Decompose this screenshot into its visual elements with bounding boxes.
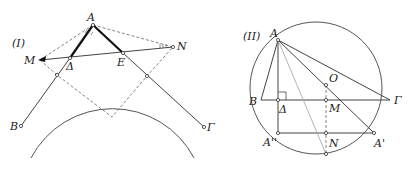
point-Aprime <box>372 131 375 134</box>
figure-2-circle <box>250 22 382 154</box>
point-M <box>324 98 327 101</box>
point-N <box>324 131 327 134</box>
label-N: N <box>176 40 187 53</box>
label-Delta: Δ <box>278 103 287 116</box>
segment-AM <box>40 25 93 60</box>
label-A: A <box>269 27 278 40</box>
arrow-head-icon <box>38 56 46 62</box>
midpoint-AB <box>55 73 58 76</box>
point-E <box>121 51 124 54</box>
point-B <box>19 124 22 127</box>
point-Gamma <box>202 125 205 128</box>
point-N <box>171 45 174 48</box>
label-Gamma: Γ <box>393 94 402 107</box>
segment-A-arcmid <box>278 40 326 154</box>
label-B: B <box>248 95 257 108</box>
point-arc-midpoint <box>324 152 327 155</box>
point-Delta <box>276 98 279 101</box>
label-A: A <box>86 11 95 24</box>
label-Adoubleprime: A'' <box>262 136 277 149</box>
label-N: N <box>328 137 339 150</box>
label-M: M <box>23 54 36 67</box>
point-O <box>324 83 327 86</box>
label-E: E <box>116 56 125 69</box>
dashed-perpendiculars <box>40 47 173 117</box>
point-Adoubleprime <box>276 131 279 134</box>
segment-AGamma <box>278 40 390 100</box>
segment-ADelta <box>70 25 93 58</box>
label-O: O <box>329 72 338 85</box>
figure-1: (I) A M N Δ E B Γ <box>9 11 215 158</box>
figure-1-tag: (I) <box>12 37 25 50</box>
line-MN <box>40 47 173 60</box>
segment-AB <box>261 40 278 100</box>
label-M: M <box>328 102 341 115</box>
segment-DeltaB <box>21 58 70 126</box>
label-Aprime: A' <box>373 137 385 150</box>
figure-2: (II) A B Γ Δ M O A'' N A' <box>243 22 402 156</box>
midpoint-AGamma <box>145 74 148 77</box>
label-B: B <box>9 120 18 133</box>
label-Delta: Δ <box>65 60 74 73</box>
label-Gamma: Γ <box>206 121 215 134</box>
geometry-figures: (I) A M N Δ E B Γ <box>0 0 410 173</box>
figure-2-tag: (II) <box>243 30 260 43</box>
